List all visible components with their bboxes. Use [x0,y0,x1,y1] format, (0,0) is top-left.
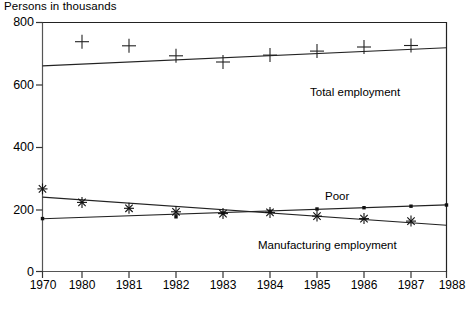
y-axis-ticks [36,23,43,272]
data-point [38,183,48,194]
data-point [171,206,181,217]
trendline-total-employment [43,48,447,66]
data-point [265,207,275,218]
data-point [169,49,183,63]
trendline-manufacturing-employment [43,197,447,225]
data-point [406,216,416,227]
chart-container: Persons in thousands 800 600 400 200 0 1… [0,0,468,315]
series-points-manufacturing-employment [38,183,417,226]
trendline-poor [43,205,447,219]
x-axis-ticks [43,272,447,279]
data-point [310,44,324,58]
data-point [312,211,322,222]
data-point [409,205,412,208]
data-point [122,39,136,53]
data-point [315,207,318,210]
data-point [218,208,228,219]
data-point [263,48,277,62]
data-point [404,39,418,53]
data-point [359,213,369,224]
data-point [124,203,134,214]
data-point [77,197,87,208]
data-point [75,35,89,49]
data-point [41,217,44,220]
plot-area [0,0,468,315]
data-point [362,206,365,209]
data-point [445,203,448,206]
